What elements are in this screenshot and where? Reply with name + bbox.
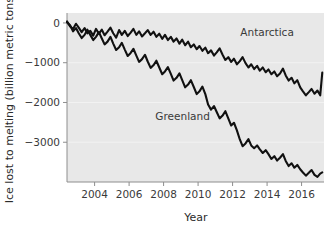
x-tick-label: 2016 <box>288 188 315 200</box>
y-tick-label: 0 <box>53 17 60 29</box>
y-axis-title: Ice lost to melting (billion metric tons… <box>3 0 16 203</box>
plot-background <box>67 13 324 182</box>
x-tick-label: 2014 <box>254 188 281 200</box>
y-tick-label: −3000 <box>24 136 60 148</box>
y-axis-ticks: 0−1000−2000−3000 <box>24 17 67 148</box>
x-tick-label: 2006 <box>116 188 143 200</box>
x-tick-label: 2008 <box>150 188 177 200</box>
y-tick-label: −1000 <box>24 56 60 68</box>
x-tick-label: 2012 <box>219 188 246 200</box>
annotation-greenland: Greenland <box>155 110 209 122</box>
x-axis-title: Year <box>183 211 208 224</box>
y-tick-label: −2000 <box>24 96 60 108</box>
annotation-antarctica: Antarctica <box>240 26 294 38</box>
chart-figure: 0−1000−2000−3000 20042006200820102012201… <box>0 0 335 228</box>
x-tick-label: 2010 <box>185 188 212 200</box>
x-tick-label: 2004 <box>81 188 108 200</box>
x-axis-ticks: 2004200620082010201220142016 <box>81 182 315 200</box>
ice-loss-line-chart: 0−1000−2000−3000 20042006200820102012201… <box>0 0 335 228</box>
